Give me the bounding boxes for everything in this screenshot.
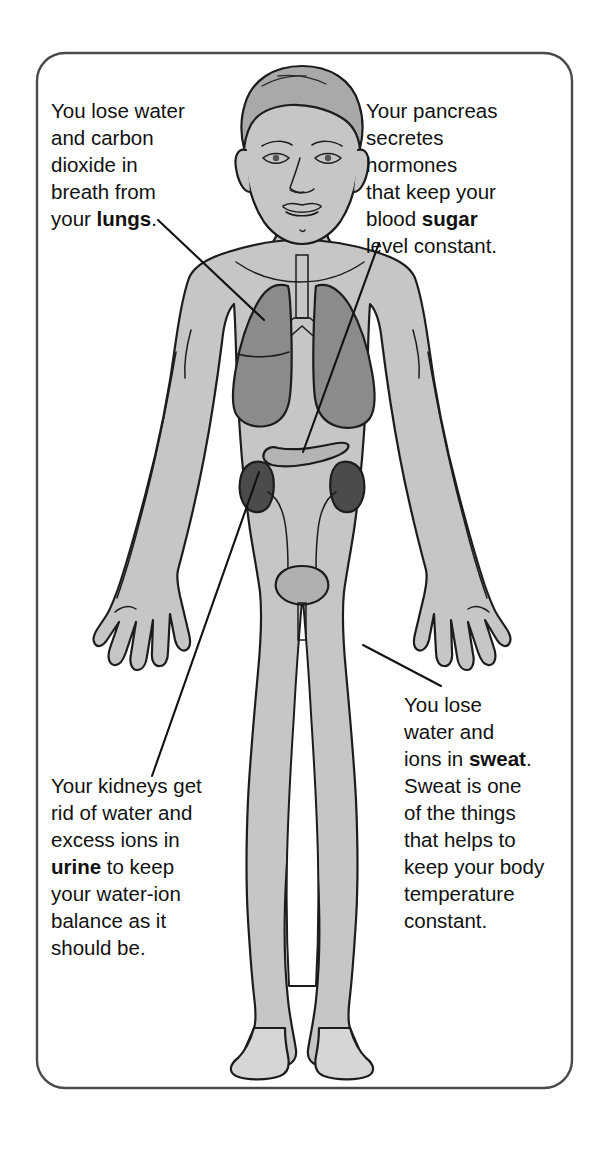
figure-root: You lose water and carbon dioxide in bre…	[0, 0, 606, 1152]
lungs-callout-line-4: breath from	[51, 180, 156, 203]
kidneys-callout-line-7: should be.	[51, 936, 146, 959]
pancreas-callout-line-5: blood sugar	[366, 207, 478, 230]
sweat-callout-line-7: keep your body	[404, 855, 545, 878]
sweat-callout-line-4: Sweat is one	[404, 774, 521, 797]
kidney-left	[240, 462, 274, 513]
bladder	[276, 566, 329, 605]
kidneys-callout-line-4: urine to keep	[51, 855, 174, 878]
pancreas-keyword: sugar	[422, 207, 478, 230]
kidneys-callout-line-6: balance as it	[51, 909, 166, 932]
kidney-right	[330, 462, 364, 513]
pancreas-callout-line-4: that keep your	[366, 180, 496, 203]
lungs-keyword: lungs	[97, 207, 152, 230]
pancreas-callout-line-2: secretes	[366, 126, 443, 149]
lungs-callout-line-5: your lungs.	[51, 207, 157, 230]
lungs-callout-line-2: and carbon	[51, 126, 154, 149]
sweat-callout-line-6: that helps to	[404, 828, 516, 851]
sweat-callout-line-2: water and	[403, 720, 494, 743]
sweat-keyword: sweat	[469, 747, 526, 770]
kidneys-keyword: urine	[51, 855, 101, 878]
sweat-callout-line-8: temperature	[404, 882, 515, 905]
pupil-right	[325, 155, 331, 161]
kidneys-callout-line-4-b: to keep	[101, 855, 174, 878]
lungs-callout-line-5-c: .	[151, 207, 157, 230]
pancreas-callout-line-1: Your pancreas	[366, 99, 497, 122]
sweat-callout-line-1: You lose	[404, 693, 482, 716]
sweat-callout-line-3-c: .	[526, 747, 532, 770]
pancreas-callout-line-5-a: blood	[366, 207, 422, 230]
kidneys-callout-line-2: rid of water and	[51, 801, 192, 824]
pancreas-callout-line-3: hormones	[366, 153, 457, 176]
lungs-callout-line-3: dioxide in	[51, 153, 138, 176]
pancreas-callout-line-6: level constant.	[366, 234, 497, 257]
kidneys-callout-line-3: excess ions in	[51, 828, 180, 851]
pupil-left	[273, 155, 279, 161]
sweat-callout-line-5: of the things	[404, 801, 516, 824]
anatomy-figure: You lose water and carbon dioxide in bre…	[0, 0, 606, 1152]
lungs-callout-line-5-a: your	[51, 207, 97, 230]
kidneys-callout-line-5: your water-ion	[51, 882, 181, 905]
kidneys-callout-line-1: Your kidneys get	[51, 774, 202, 797]
sweat-callout-line-3: ions in sweat.	[404, 747, 532, 770]
sweat-callout-line-3-a: ions in	[404, 747, 469, 770]
lungs-callout-line-1: You lose water	[51, 99, 185, 122]
sweat-callout-line-9: constant.	[404, 909, 487, 932]
